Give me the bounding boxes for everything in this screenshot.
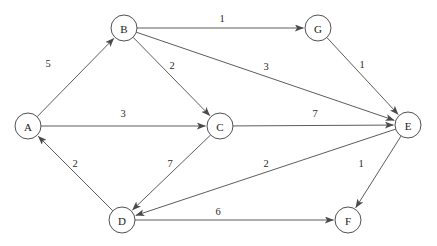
graph-node-f[interactable]: F xyxy=(335,207,361,233)
edge-weight-a-c: 3 xyxy=(120,108,125,119)
edge-weight-b-e: 3 xyxy=(263,61,268,72)
node-label-b: B xyxy=(120,23,127,35)
edge-weight-a-b: 5 xyxy=(45,58,50,69)
graph-edge-b-e xyxy=(136,32,394,120)
graph-edge-e-d xyxy=(136,129,396,215)
graph-edge-b-c xyxy=(133,37,210,115)
edge-weight-g-e: 1 xyxy=(359,59,364,70)
graph-node-a[interactable]: A xyxy=(15,113,41,139)
edge-weight-d-a: 2 xyxy=(72,158,77,169)
graph-diagram: 531231772216 ABCDEFG xyxy=(0,0,437,246)
edge-weight-c-d: 7 xyxy=(167,158,172,169)
graph-edge-d-a xyxy=(38,136,113,211)
graph-edge-c-e xyxy=(233,125,394,126)
node-label-d: D xyxy=(118,215,126,227)
node-label-a: A xyxy=(24,121,32,133)
node-label-c: C xyxy=(216,121,223,133)
edge-weight-e-f: 1 xyxy=(358,158,363,169)
graph-edge-a-b xyxy=(37,38,114,116)
graph-node-b[interactable]: B xyxy=(111,15,137,41)
node-label-f: F xyxy=(345,215,351,227)
graph-node-d[interactable]: D xyxy=(109,207,135,233)
edge-labels-layer: 531231772216 xyxy=(45,13,364,217)
node-label-g: G xyxy=(314,23,322,35)
edge-weight-b-g: 1 xyxy=(219,13,224,24)
edge-weight-e-d: 2 xyxy=(263,158,268,169)
node-label-e: E xyxy=(405,120,412,132)
graph-canvas: 531231772216 ABCDEFG xyxy=(0,0,437,246)
graph-node-c[interactable]: C xyxy=(207,113,233,139)
graph-edge-g-e xyxy=(327,38,398,115)
graph-edge-e-f xyxy=(356,136,401,208)
edge-weight-b-c: 2 xyxy=(169,60,174,71)
edge-weight-c-e: 7 xyxy=(312,108,317,119)
graph-node-e[interactable]: E xyxy=(395,112,421,138)
graph-node-g[interactable]: G xyxy=(305,15,331,41)
graph-edge-c-d xyxy=(132,135,210,210)
edge-weight-d-f: 6 xyxy=(215,206,220,217)
